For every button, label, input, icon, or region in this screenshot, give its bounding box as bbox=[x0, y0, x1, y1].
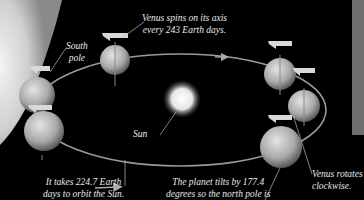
label-tilt: The planet tilts by 177.4 degrees so the… bbox=[166, 176, 270, 200]
label-line: degrees so the north pole is bbox=[166, 188, 270, 200]
venus-planet bbox=[260, 126, 302, 168]
label-south-pole: South pole bbox=[66, 40, 88, 64]
label-line: Venus spins on its axis bbox=[142, 12, 227, 24]
label-line: every 243 Earth days. bbox=[142, 24, 227, 36]
label-line: It takes 224.7 Earth bbox=[43, 176, 124, 188]
label-line: South bbox=[66, 40, 88, 52]
label-line: clockwise. bbox=[312, 180, 363, 192]
label-line: Venus rotates bbox=[312, 168, 363, 180]
label-orbit-period: It takes 224.7 Earth days to orbit the S… bbox=[43, 176, 124, 200]
label-sun: Sun bbox=[133, 128, 147, 140]
sun bbox=[163, 80, 201, 118]
side-panel bbox=[352, 0, 364, 135]
label-line: days to orbit the Sun. bbox=[43, 188, 124, 200]
label-line: The planet tilts by 177.4 bbox=[166, 176, 270, 188]
label-rotation-direction: Venus rotates clockwise. bbox=[312, 168, 363, 192]
label-line: pole bbox=[66, 52, 88, 64]
label-spin-period: Venus spins on its axis every 243 Earth … bbox=[142, 12, 227, 36]
venus-orbit-diagram: South pole Venus spins on its axis every… bbox=[0, 0, 364, 200]
venus-planet bbox=[24, 111, 64, 151]
